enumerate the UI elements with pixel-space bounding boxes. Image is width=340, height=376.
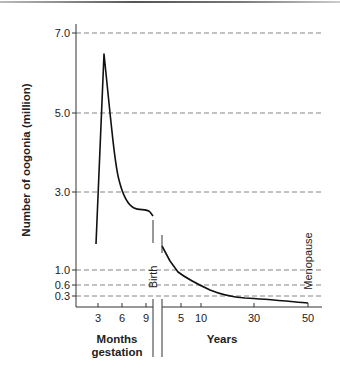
y-ticks (72, 33, 76, 296)
menopause-label: Menopause (302, 232, 314, 290)
x-tick-label: 10 (195, 312, 207, 324)
y-tick-label: 1.0 (55, 264, 70, 276)
y-tick-label: 7.0 (55, 27, 70, 39)
x-tick-label: 5 (178, 312, 184, 324)
gridlines (76, 33, 323, 296)
x-tick-label: 50 (302, 312, 314, 324)
oogonia-chart: 7.0 5.0 3.0 1.0 0.6 0.3 Number of oogoni… (0, 0, 340, 376)
x-ticks-gestation (98, 303, 146, 307)
x-tick-label: 9 (143, 312, 149, 324)
x-axis-title-gestation: gestation (91, 346, 142, 358)
x-tick-label: 3 (95, 312, 101, 324)
birth-label: Birth (147, 266, 159, 289)
x-ticks-years (181, 303, 308, 307)
x-tick-label: 6 (119, 312, 125, 324)
y-tick-label: 5.0 (55, 107, 70, 119)
y-tick-label: 0.3 (55, 290, 70, 302)
y-tick-label: 3.0 (55, 186, 70, 198)
x-tick-label: 30 (248, 312, 260, 324)
postnatal-curve (162, 246, 308, 303)
x-axis-title-months: Months (97, 333, 138, 345)
x-axis-title-years: Years (207, 333, 238, 345)
y-axis-title: Number of oogonia (million) (20, 83, 32, 236)
prenatal-curve (96, 54, 153, 244)
